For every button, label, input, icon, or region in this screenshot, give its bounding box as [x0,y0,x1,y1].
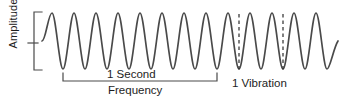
sound-wave-diagram: Amplitude 1 Second Frequency 1 Vibration [0,0,353,100]
amplitude-axis-label: Amplitude [8,0,19,54]
one-vibration-label: 1 Vibration [232,78,287,90]
one-second-label: 1 Second [107,69,156,81]
vibration-marker-lines [239,14,283,72]
waveform-path [42,13,338,69]
amplitude-bracket [28,12,42,70]
waveform-svg [0,0,353,100]
frequency-label: Frequency [108,85,162,97]
